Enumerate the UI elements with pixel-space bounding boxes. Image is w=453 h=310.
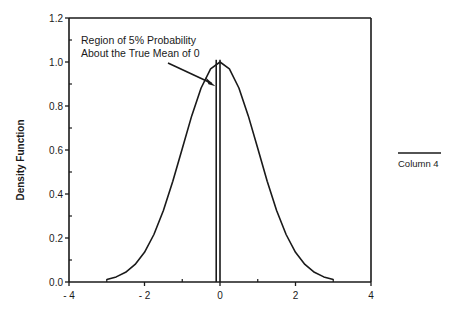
x-tick-label: - 4	[63, 290, 75, 301]
y-tick-label: 0.2	[49, 233, 63, 244]
y-tick-label: 0.0	[49, 277, 63, 288]
annotation-arrow-shaft	[168, 63, 211, 83]
y-tick-label: 0.8	[49, 101, 63, 112]
y-tick-label: 1.0	[49, 57, 63, 68]
density-chart: 0.00.20.40.60.81.01.2 - 4- 2024 Region o…	[0, 0, 453, 310]
legend-label: Column 4	[398, 158, 439, 169]
y-tick-label: 0.6	[49, 145, 63, 156]
y-tick-label: 0.4	[49, 189, 63, 200]
x-tick-label: 0	[217, 290, 223, 301]
y-axis-label: Density Function	[15, 119, 26, 200]
region-lines	[216, 60, 220, 282]
x-tick-label: - 2	[139, 290, 151, 301]
annotation: Region of 5% ProbabilityAbout the True M…	[81, 34, 215, 86]
legend: Column 4	[398, 153, 441, 169]
annotation-text: Region of 5% Probability	[81, 34, 197, 46]
x-tick-label: 4	[368, 290, 374, 301]
x-tick-label: 2	[293, 290, 299, 301]
annotation-text: About the True Mean of 0	[81, 47, 200, 59]
y-axis-label-text: Density Function	[15, 119, 26, 200]
y-tick-label: 1.2	[49, 13, 63, 24]
